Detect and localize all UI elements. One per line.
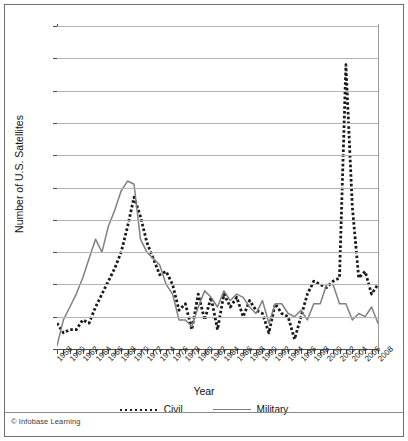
gridline [57,123,378,124]
series-line-civil [57,65,378,340]
y-tick-mark [53,26,57,27]
gridline [57,58,378,59]
y-tick-mark [53,123,57,124]
y-tick-mark [53,91,57,92]
gridline [57,220,378,221]
y-tick-mark [53,58,57,59]
chart-figure: Number of U.S. Satellites 01020304050607… [0,0,408,441]
y-axis-title: Number of U.S. Satellites [13,34,25,314]
copyright-credit: © Infobase Learning [11,417,81,426]
y-tick-mark [53,252,57,253]
gridline [57,91,378,92]
gridline [57,252,378,253]
gridline [57,26,378,27]
plot-right-border [378,24,379,350]
legend-item-military: Military [213,404,289,415]
y-tick-mark [53,317,57,318]
y-tick-mark [53,155,57,156]
gridline [57,284,378,285]
legend-swatch-icon [120,405,158,415]
x-axis-title: Year [0,385,408,397]
y-tick-mark [53,188,57,189]
chart-legend: CivilMilitary [0,404,408,415]
legend-label: Civil [164,404,183,415]
gridline [57,317,378,318]
credit-divider [5,412,403,413]
legend-swatch-icon [213,405,251,415]
y-tick-mark [53,284,57,285]
y-tick-mark [53,220,57,221]
plot-area [57,26,378,349]
gridline [57,155,378,156]
gridline [57,188,378,189]
legend-item-civil: Civil [120,404,183,415]
series-line-military [57,181,378,346]
legend-label: Military [257,404,289,415]
